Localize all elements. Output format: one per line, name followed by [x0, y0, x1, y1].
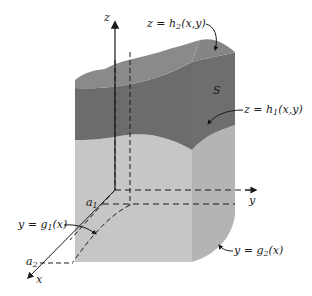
g2-pointer-arrow	[219, 245, 233, 251]
h1-label: z = h1(x,y)	[243, 103, 303, 117]
h2-label: z = h2(x,y)	[146, 17, 206, 31]
g2-label: y = g2(x)	[233, 244, 283, 258]
x-axis-label: x	[36, 273, 43, 286]
z-axis-label: z	[103, 11, 110, 24]
solid-right-face-lower	[192, 125, 235, 262]
y-axis-label: y	[248, 194, 256, 207]
solid-region-diagram: z y x z = h2(x,y) S z = h1(x,y) a1 y = g…	[0, 0, 312, 296]
region-S-label: S	[213, 84, 221, 97]
g1-label: y = g1(x)	[17, 218, 67, 232]
a2-label: a2	[26, 255, 38, 269]
